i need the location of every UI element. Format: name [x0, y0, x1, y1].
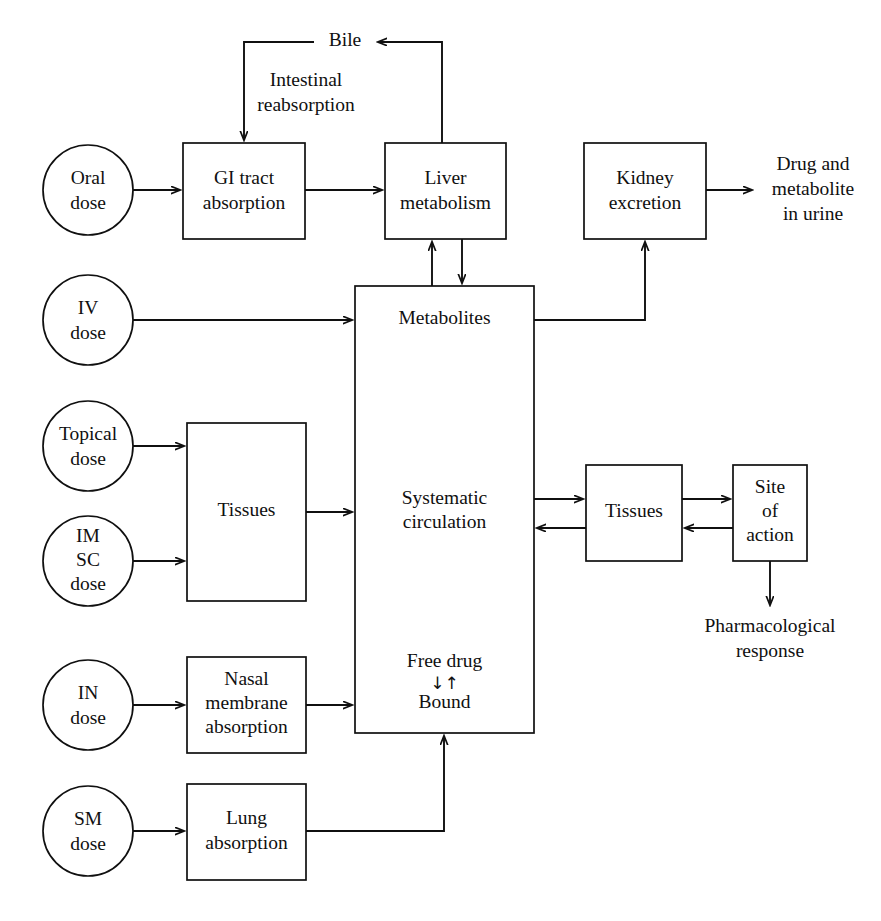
sm-dose-label-line1: SM [74, 808, 102, 829]
oral-dose-label-line2: dose [70, 192, 106, 213]
pharmacological-response-line2: response [736, 640, 804, 661]
node-oral-dose: Oral dose [43, 145, 133, 235]
node-topical-dose: Topical dose [43, 401, 133, 491]
sm-dose-circle [43, 786, 133, 876]
pharmacological-response-line1: Pharmacological [704, 615, 836, 636]
label-drug-and-metabolite-in-urine: Drug and metabolite in urine [772, 153, 854, 224]
lung-label-line2: absorption [205, 832, 288, 853]
node-kidney-excretion: Kidney excretion [584, 143, 706, 239]
oral-dose-circle [43, 145, 133, 235]
gi-tract-label-line2: absorption [203, 192, 286, 213]
node-tissues-right: Tissues [586, 465, 682, 561]
node-liver-metabolism: Liver metabolism [385, 143, 506, 239]
in-dose-circle [43, 660, 133, 750]
nasal-label-line1: Nasal [224, 668, 269, 689]
im-sc-dose-label-line2: SC [76, 549, 100, 570]
node-tissues-left: Tissues [187, 423, 306, 601]
topical-dose-label-line2: dose [70, 448, 106, 469]
equilibrium-arrows-icon: ↓↑ [430, 673, 459, 693]
im-sc-dose-label-line3: dose [70, 573, 106, 594]
node-site-of-action: Site of action [733, 465, 807, 561]
node-nasal-membrane-absorption: Nasal membrane absorption [187, 657, 306, 753]
liver-rect [385, 143, 506, 239]
iv-dose-circle [43, 275, 133, 365]
in-dose-label-line1: IN [78, 682, 99, 703]
bile-label: Bile [329, 29, 362, 50]
systemic-label-free-drug: Free drug [407, 650, 483, 671]
oral-dose-label-line1: Oral [71, 167, 106, 188]
edge-liver-to-bile [378, 42, 442, 143]
im-sc-dose-label-line1: IM [76, 525, 100, 546]
central-systemic-circulation-box: Metabolites Systematic circulation Free … [355, 286, 534, 733]
edge-bile-to-gi [244, 42, 314, 140]
intestinal-reabsorption-line2: reabsorption [257, 94, 355, 115]
lung-label-line1: Lung [226, 807, 267, 828]
kidney-rect [584, 143, 706, 239]
topical-dose-circle [43, 401, 133, 491]
iv-dose-label-line1: IV [78, 297, 99, 318]
nasal-label-line2: membrane [205, 692, 287, 713]
tissues-right-label: Tissues [605, 500, 663, 521]
gi-tract-rect [183, 143, 305, 239]
node-gi-tract-absorption: GI tract absorption [183, 143, 305, 239]
edge-lung-to-systemic [306, 736, 444, 831]
iv-dose-label-line2: dose [70, 322, 106, 343]
urine-output-line3: in urine [783, 203, 843, 224]
nasal-label-line3: absorption [205, 716, 288, 737]
pharmacokinetics-diagram: Metabolites Systematic circulation Free … [0, 0, 881, 921]
label-intestinal-reabsorption: Intestinal reabsorption [257, 69, 355, 115]
urine-output-line1: Drug and [776, 153, 849, 174]
urine-output-line2: metabolite [772, 178, 854, 199]
site-of-action-label-line1: Site [755, 476, 785, 497]
systemic-label-circulation-line1: Systematic [402, 487, 488, 508]
node-sm-dose: SM dose [43, 786, 133, 876]
node-iv-dose: IV dose [43, 275, 133, 365]
flow-diagram-canvas: Metabolites Systematic circulation Free … [0, 0, 881, 921]
node-lung-absorption: Lung absorption [187, 784, 306, 880]
node-in-dose: IN dose [43, 660, 133, 750]
tissues-left-label: Tissues [218, 499, 276, 520]
kidney-label-line2: excretion [609, 192, 682, 213]
topical-dose-label-line1: Topical [59, 423, 118, 444]
systemic-label-metabolites: Metabolites [398, 307, 490, 328]
label-bile: Bile [316, 29, 374, 54]
sm-dose-label-line2: dose [70, 833, 106, 854]
kidney-label-line1: Kidney [616, 167, 674, 188]
in-dose-label-line2: dose [70, 707, 106, 728]
node-im-sc-dose: IM SC dose [43, 516, 133, 606]
gi-tract-label-line1: GI tract [214, 167, 275, 188]
systemic-label-bound: Bound [418, 691, 470, 712]
liver-label-line1: Liver [424, 167, 467, 188]
site-of-action-label-line3: action [746, 524, 794, 545]
label-pharmacological-response: Pharmacological response [704, 615, 836, 661]
liver-label-line2: metabolism [400, 192, 491, 213]
edge-systemic-to-kidney [534, 242, 645, 320]
site-of-action-label-line2: of [762, 500, 779, 521]
systemic-label-circulation-line2: circulation [403, 511, 487, 532]
intestinal-reabsorption-line1: Intestinal [270, 69, 343, 90]
